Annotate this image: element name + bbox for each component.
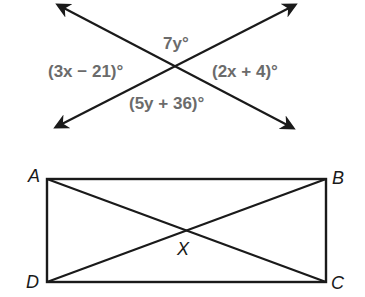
angle-label-top: 7y° [163,34,189,53]
rectangle-figure: A B C D X [26,166,345,293]
vertex-label-b: B [332,168,344,188]
vertex-label-c: C [331,273,345,293]
geometry-figure: 7y° (3x − 21)° (2x + 4)° (5y + 36)° A B … [0,0,365,297]
angle-label-bottom: (5y + 36)° [129,94,205,113]
intersecting-lines-figure: 7y° (3x − 21)° (2x + 4)° (5y + 36)° [48,5,295,128]
vertex-label-a: A [27,166,40,186]
angle-label-right: (2x + 4)° [212,62,278,81]
vertex-label-d: D [26,272,39,292]
intersection-label-x: X [176,239,190,259]
angle-label-left: (3x − 21)° [48,62,124,81]
